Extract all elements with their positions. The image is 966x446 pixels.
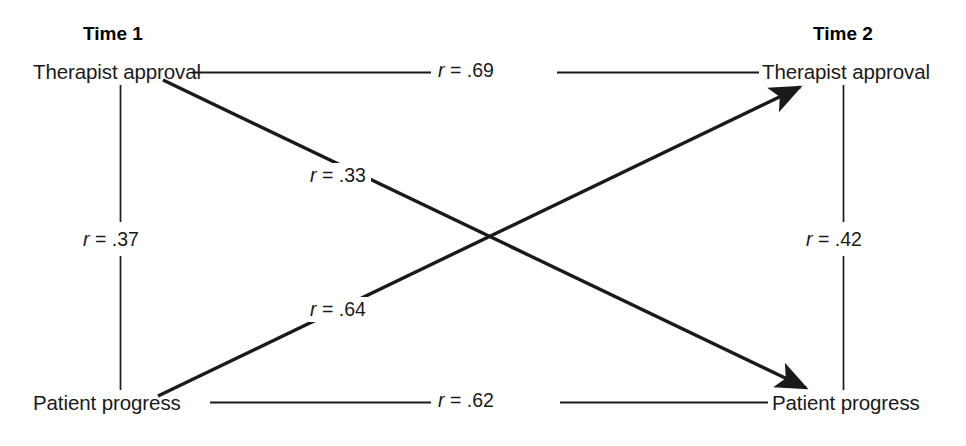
corr-value: .37 — [112, 228, 139, 250]
corr-label-stability-patient-progress: r = .62 — [433, 388, 499, 413]
corr-value: .33 — [339, 164, 366, 186]
equals-sign: = — [90, 228, 112, 250]
corr-label-crosslag-progress-to-approval: r = .64 — [305, 297, 371, 322]
node-t2-patient-progress: Patient progress — [772, 391, 920, 415]
equals-sign: = — [317, 164, 339, 186]
equals-sign: = — [445, 389, 467, 411]
corr-label-synchronous-time1: r = .37 — [78, 227, 144, 252]
corr-value: .64 — [339, 298, 366, 320]
node-t1-therapist-approval: Therapist approval — [33, 60, 201, 84]
path-line-crosslag-approval-to-progress — [163, 80, 806, 388]
equals-sign: = — [317, 298, 339, 320]
corr-value: .42 — [835, 228, 862, 250]
node-t1-patient-progress: Patient progress — [33, 391, 181, 415]
corr-value: .69 — [467, 59, 494, 81]
corr-label-crosslag-approval-to-progress: r = .33 — [305, 163, 371, 188]
equals-sign: = — [445, 59, 467, 81]
path-line-crosslag-progress-to-approval — [158, 87, 800, 396]
equals-sign: = — [813, 228, 835, 250]
corr-label-stability-therapist-approval: r = .69 — [433, 58, 499, 83]
corr-value: .62 — [467, 389, 494, 411]
wave-label-time1: Time 1 — [83, 23, 143, 45]
wave-label-time2: Time 2 — [813, 23, 873, 45]
cross-lagged-panel-diagram: Time 1 Time 2 Therapist approval Therapi… — [0, 0, 966, 446]
node-t2-therapist-approval: Therapist approval — [762, 60, 930, 84]
corr-label-synchronous-time2: r = .42 — [801, 227, 867, 252]
